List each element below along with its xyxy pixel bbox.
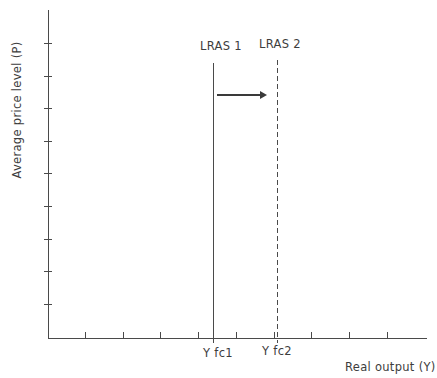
x-axis-tick [123, 332, 124, 339]
y-axis-tick [44, 271, 52, 272]
x-axis-tick [274, 332, 275, 339]
x-tick-label-yfc2: Y fc2 [262, 344, 292, 358]
x-axis-tick [349, 332, 350, 339]
x-tick-label-yfc1: Y fc1 [203, 346, 233, 360]
x-axis-tick [85, 332, 86, 339]
rightward-shift-arrow-icon [217, 94, 261, 96]
x-axis-tick [198, 332, 199, 339]
y-axis-tick [44, 76, 52, 77]
y-axis-tick [44, 304, 52, 305]
lras-shift-chart: LRAS 1 LRAS 2 Y fc1 Y fc2 Real output (Y… [0, 0, 437, 378]
y-axis-line [48, 10, 49, 338]
y-axis-tick [44, 43, 52, 44]
x-axis-label: Real output (Y) [345, 360, 436, 374]
y-axis-tick [44, 206, 52, 207]
lras2-line [277, 60, 278, 343]
lras2-label: LRAS 2 [259, 37, 301, 51]
x-axis-line [48, 338, 427, 339]
y-axis-tick [44, 173, 52, 174]
arrowhead-icon [260, 91, 267, 99]
x-axis-tick [236, 332, 237, 339]
y-axis-tick [44, 141, 52, 142]
y-axis-tick [44, 108, 52, 109]
x-axis-tick [387, 332, 388, 339]
lras1-line [213, 63, 214, 343]
x-axis-tick [311, 332, 312, 339]
y-axis-label: Average price level (P) [10, 35, 24, 185]
x-axis-tick [160, 332, 161, 339]
y-axis-tick [44, 239, 52, 240]
lras1-label: LRAS 1 [200, 39, 242, 53]
